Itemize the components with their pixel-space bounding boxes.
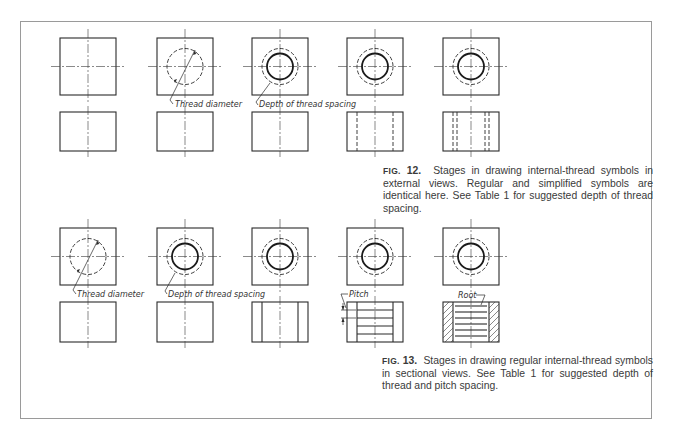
fig12-stage5-front-view bbox=[443, 106, 499, 157]
fig13-stage1-front-view bbox=[60, 296, 116, 348]
fig13-caption-text: Stages in drawing regular internal-threa… bbox=[382, 355, 653, 391]
fig12-stage1-top-view bbox=[51, 29, 125, 104]
fig12-caption: FIG. 12. Stages in drawing internal-thre… bbox=[383, 165, 653, 215]
label-root: Root bbox=[458, 291, 477, 300]
label-thread-diameter-fig13: Thread diameter bbox=[77, 290, 145, 299]
fig12-stage5-top-view bbox=[434, 29, 508, 104]
fig12-stage1-front-view bbox=[60, 106, 116, 157]
fig12-caption-number: 12. bbox=[407, 165, 421, 176]
label-depth-thread-spacing-fig13: Depth of thread spacing bbox=[168, 290, 265, 299]
label-depth-thread-spacing-fig12: Depth of thread spacing bbox=[259, 100, 356, 109]
label-pitch: Pitch bbox=[349, 290, 369, 299]
fig13-stage3-front-view bbox=[252, 296, 308, 348]
fig13-caption-number: 13. bbox=[403, 355, 417, 366]
fig13-stage4-front-view bbox=[341, 294, 403, 348]
fig12-stage2-top-view bbox=[148, 29, 222, 104]
fig13-stage1-top-view bbox=[51, 219, 125, 294]
fig13-stage5-front-view bbox=[443, 295, 499, 348]
fig12-stage3-top-view bbox=[243, 29, 317, 105]
fig13-stage5-top-view bbox=[434, 219, 508, 294]
fig13-stage2-front-view bbox=[157, 296, 213, 348]
fig13-caption-label: FIG. bbox=[382, 356, 400, 366]
fig12-stage4-front-view bbox=[347, 106, 403, 157]
fig12-caption-label: FIG. bbox=[383, 166, 401, 176]
fig12-stage4-top-view bbox=[338, 29, 412, 104]
fig13-stage4-top-view bbox=[338, 219, 412, 294]
fig12-caption-text: Stages in drawing internal-thread symbol… bbox=[383, 165, 653, 214]
fig12-stage2-front-view bbox=[157, 106, 213, 157]
fig13-stage2-top-view bbox=[148, 219, 222, 294]
fig13-caption: FIG. 13. Stages in drawing regular inter… bbox=[382, 355, 653, 393]
fig12-stage3-front-view bbox=[252, 106, 308, 157]
fig13-stage3-top-view bbox=[243, 219, 317, 294]
